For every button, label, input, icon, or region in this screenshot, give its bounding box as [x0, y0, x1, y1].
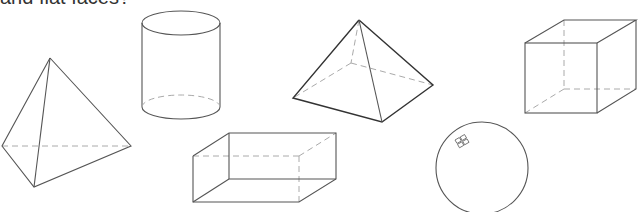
sphere-mark-icon	[455, 135, 469, 148]
cube-shape	[525, 20, 636, 113]
cylinder-shape	[142, 11, 220, 119]
tetrahedron-shape	[2, 58, 131, 187]
solids-diagram	[0, 0, 640, 212]
sphere-shape	[436, 122, 528, 212]
rectangular-prism-shape	[193, 133, 336, 202]
square-pyramid-shape	[293, 20, 433, 122]
